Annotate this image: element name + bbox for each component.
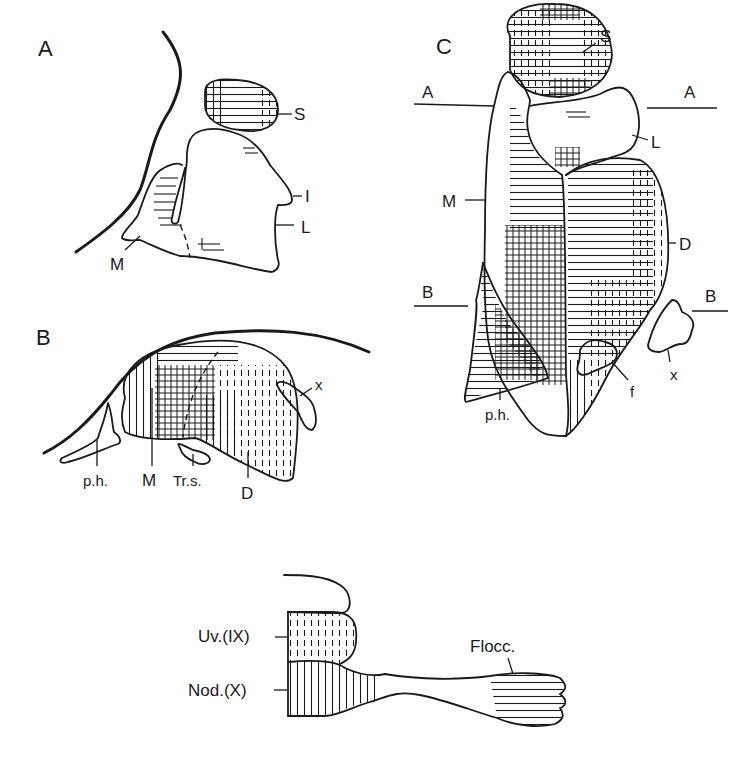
flocculus-label: Flocc. — [470, 637, 515, 656]
panel-a-structure-l: I L — [180, 129, 310, 272]
panel-c: C A A B B S — [414, 0, 728, 440]
panel-b-d-label: D — [241, 484, 253, 503]
panel-c-m-label: M — [442, 192, 456, 211]
panel-c-structure-x: x — [648, 300, 693, 383]
panel-a-m-label: M — [110, 255, 124, 274]
nodulus-label: Nod.(X) — [188, 681, 247, 700]
panel-c-l-label: L — [651, 133, 660, 152]
section-b-right-label: B — [705, 287, 716, 306]
panel-d: Uv.(IX) Nod.(X) Flocc. — [188, 575, 570, 730]
panel-c-ph-label: p.h. — [485, 406, 510, 423]
panel-b-label: B — [36, 325, 51, 350]
section-b-left-label: B — [422, 283, 433, 302]
panel-a-surface-curve — [76, 32, 180, 252]
panel-c-label: C — [436, 34, 452, 59]
panel-b: B p.h. Tr.s. M D — [36, 325, 369, 503]
panel-c-d-label: D — [679, 235, 691, 254]
uvula-label: Uv.(IX) — [198, 627, 250, 646]
panel-c-x-label: x — [670, 366, 678, 383]
panel-b-ph-label: p.h. — [83, 472, 108, 489]
panel-c-structure-s: S — [500, 0, 620, 100]
panel-a-s-label: S — [294, 105, 305, 124]
panel-b-trs-label: Tr.s. — [173, 472, 202, 489]
panel-b-m-label: M — [142, 471, 156, 490]
flocculus-structure: Flocc. — [470, 637, 570, 730]
panel-a: A S I L — [38, 32, 310, 274]
uvula-structure: Uv.(IX) — [198, 612, 360, 664]
panel-c-s-label: S — [600, 27, 611, 46]
panel-a-l-label: L — [301, 218, 310, 237]
panel-c-structure-d: D — [562, 158, 691, 440]
panel-b-x-label: x — [315, 376, 323, 393]
section-a-right-label: A — [684, 83, 696, 102]
figure-canvas: A S I L — [0, 0, 750, 758]
panel-a-structure-s: S — [205, 78, 305, 134]
panel-a-i-label: I — [305, 187, 310, 206]
panel-c-f-label: f — [630, 383, 635, 400]
panel-b-structure-trs: Tr.s. — [173, 444, 210, 489]
section-line-a-left — [414, 104, 494, 106]
section-a-left-label: A — [422, 83, 434, 102]
panel-a-label: A — [38, 36, 53, 61]
vermis-upper-fold — [284, 575, 350, 613]
